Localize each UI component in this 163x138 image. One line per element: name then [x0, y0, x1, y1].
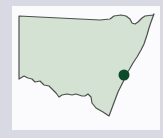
region-outline-new-south-wales[interactable]	[19, 14, 154, 116]
map-canvas	[0, 0, 163, 138]
location-marker[interactable]	[119, 70, 130, 81]
